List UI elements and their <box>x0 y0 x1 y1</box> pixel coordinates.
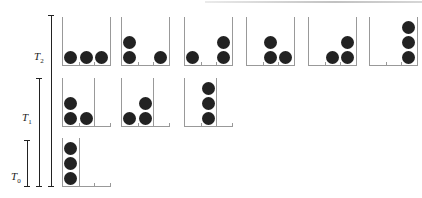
ball <box>264 51 277 64</box>
config-cell <box>308 17 356 65</box>
ball <box>402 36 415 49</box>
ball <box>202 97 215 110</box>
ball <box>341 36 354 49</box>
ball <box>341 51 354 64</box>
config-cell <box>184 17 232 65</box>
ball <box>123 51 136 64</box>
config-cell <box>121 17 169 65</box>
config-cell <box>369 17 417 65</box>
ball <box>95 51 108 64</box>
config-cell <box>121 78 169 126</box>
ball <box>123 112 136 125</box>
ball <box>123 36 136 49</box>
ball <box>139 112 152 125</box>
ball <box>64 112 77 125</box>
ball <box>64 172 77 185</box>
label-t0: T0 <box>11 170 21 185</box>
ball <box>217 51 230 64</box>
config-cell <box>62 78 110 126</box>
config-cell <box>62 138 110 186</box>
ball <box>80 51 93 64</box>
config-cell <box>62 17 110 65</box>
ball <box>279 51 292 64</box>
ball <box>64 142 77 155</box>
ball <box>264 36 277 49</box>
ball <box>326 51 339 64</box>
config-cell <box>184 78 232 126</box>
ball <box>139 97 152 110</box>
ball <box>154 51 167 64</box>
ball <box>64 157 77 170</box>
ball <box>217 36 230 49</box>
ball <box>64 97 77 110</box>
label-t2: T2 <box>34 50 44 65</box>
ball <box>80 112 93 125</box>
ball <box>402 51 415 64</box>
ball <box>202 82 215 95</box>
ball <box>202 112 215 125</box>
config-cell <box>246 17 294 65</box>
cropped-caption-line <box>205 0 422 4</box>
ball <box>186 51 199 64</box>
label-t1: T1 <box>22 111 32 126</box>
ball <box>402 21 415 34</box>
ball <box>64 51 77 64</box>
